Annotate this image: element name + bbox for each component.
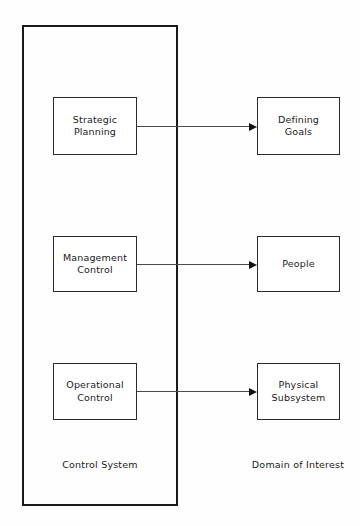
node-physical-subsystem[interactable]: Physical Subsystem: [257, 363, 340, 420]
arrowhead-icon: [249, 388, 257, 396]
node-management-control-label: Management Control: [59, 252, 131, 277]
node-management-control[interactable]: Management Control: [53, 236, 137, 292]
node-strategic-planning[interactable]: Strategic Planning: [53, 97, 137, 155]
node-physical-subsystem-label: Physical Subsystem: [268, 379, 330, 404]
node-defining-goals[interactable]: Defining Goals: [257, 97, 340, 155]
node-operational-control[interactable]: Operational Control: [53, 363, 137, 420]
diagram-canvas: Strategic Planning Defining Goals Manage…: [0, 0, 360, 526]
caption-domain-of-interest: Domain of Interest: [237, 459, 359, 470]
caption-control-system: Control System: [22, 459, 178, 470]
arrowhead-icon: [249, 123, 257, 131]
node-defining-goals-label: Defining Goals: [274, 114, 323, 139]
node-people[interactable]: People: [257, 236, 340, 292]
node-strategic-planning-label: Strategic Planning: [69, 114, 121, 139]
node-operational-control-label: Operational Control: [62, 379, 127, 404]
arrowhead-icon: [249, 261, 257, 269]
node-people-label: People: [278, 258, 318, 271]
